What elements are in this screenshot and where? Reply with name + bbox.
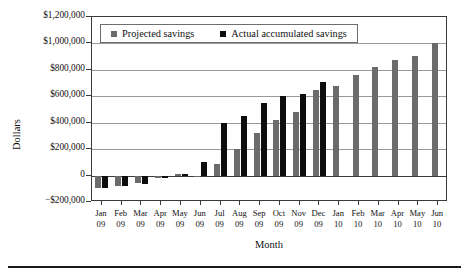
y-tick-label: $600,000 [9, 91, 85, 100]
x-tick-mark [358, 201, 359, 205]
bar-projected [135, 176, 141, 184]
bar-actual [122, 176, 128, 187]
bar-actual [280, 96, 286, 175]
bar-projected [254, 133, 260, 176]
x-tick-mark [121, 201, 122, 205]
bar-actual [261, 103, 267, 176]
x-tick-label: Jun10 [420, 208, 454, 229]
x-tick-mark [259, 201, 260, 205]
bar-projected [372, 67, 378, 175]
bar-actual [300, 94, 306, 175]
bar-projected [412, 56, 418, 176]
savings-bar-chart-figure: Dollars $1,200,000$1,000,000$800,000$600… [0, 0, 469, 274]
bar-projected [194, 176, 200, 177]
bottom-divider-rule [8, 266, 461, 268]
x-tick-mark [398, 201, 399, 205]
bar-projected [333, 86, 339, 175]
y-tick-label: 0 [9, 170, 85, 179]
x-tick-mark [437, 201, 438, 205]
bar-projected [432, 43, 438, 175]
x-tick-mark [160, 201, 161, 205]
bar-projected [214, 164, 220, 176]
x-tick-mark [318, 201, 319, 205]
bar-actual [221, 123, 227, 176]
bar-actual [201, 162, 207, 176]
y-tick-label: −$200,000 [9, 196, 85, 205]
y-axis-title: Dollars [6, 94, 26, 174]
x-tick-mark [338, 201, 339, 205]
x-tick-mark [101, 201, 102, 205]
bar-projected [353, 75, 359, 175]
bar-projected [95, 176, 101, 189]
y-tick-label: $400,000 [9, 117, 85, 126]
legend-label-projected: Projected savings [122, 28, 194, 39]
x-tick-mark [220, 201, 221, 205]
x-tick-mark [417, 201, 418, 205]
legend-item-projected: Projected savings [111, 28, 194, 39]
bar-projected [115, 176, 121, 187]
x-tick-mark [279, 201, 280, 205]
x-tick-mark [200, 201, 201, 205]
bar-actual [320, 82, 326, 176]
bar-projected [313, 90, 319, 175]
bar-actual [182, 174, 188, 176]
legend-item-actual: Actual accumulated savings [220, 28, 347, 39]
bar-projected [392, 60, 398, 176]
y-tick-label: $1,200,000 [9, 11, 85, 20]
bar-projected [273, 120, 279, 176]
chart-legend: Projected savings Actual accumulated sav… [100, 24, 358, 43]
y-tick-mark [86, 201, 91, 202]
x-tick-mark [378, 201, 379, 205]
bar-projected [175, 174, 181, 176]
legend-swatch-black-icon [220, 31, 226, 37]
y-tick-label: $1,000,000 [9, 38, 85, 47]
bar-actual [142, 176, 148, 185]
legend-swatch-gray-icon [111, 31, 117, 37]
bar-projected [234, 149, 240, 175]
x-axis-title: Month [91, 239, 447, 250]
bar-actual [241, 116, 247, 175]
x-tick-mark [239, 201, 240, 205]
plot-area [91, 16, 447, 201]
bar-series-container [92, 17, 446, 200]
x-tick-mark [180, 201, 181, 205]
y-tick-label: $800,000 [9, 64, 85, 73]
bar-projected [155, 176, 161, 178]
bar-projected [293, 112, 299, 175]
legend-label-actual: Actual accumulated savings [231, 28, 347, 39]
x-tick-mark [299, 201, 300, 205]
bar-actual [102, 176, 108, 189]
bar-actual [162, 176, 168, 179]
y-tick-label: $200,000 [9, 143, 85, 152]
x-tick-mark [140, 201, 141, 205]
